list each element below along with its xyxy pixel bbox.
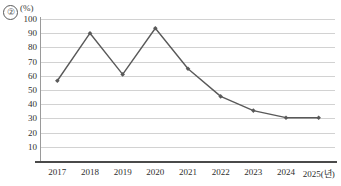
y-axis-tick-label: 10 [13, 143, 37, 152]
y-axis-tick-label: 70 [13, 58, 37, 67]
x-axis-line [35, 161, 337, 163]
x-axis-tick-label: 2024 [277, 167, 295, 177]
series-polyline [57, 28, 318, 117]
data-point-marker [284, 115, 289, 120]
data-point-marker [251, 108, 256, 113]
plot-area [41, 19, 335, 161]
x-axis-tick-label: 2019 [114, 167, 132, 177]
x-axis-tick-label: 2018 [81, 167, 99, 177]
y-axis-tick-label: 50 [13, 86, 37, 95]
data-point-marker [316, 115, 321, 120]
y-axis-tick-label: 100 [13, 15, 37, 24]
y-axis-unit-label: (%) [20, 3, 34, 13]
x-axis-tick-label: 2021 [179, 167, 197, 177]
x-axis-tick-label: 2020 [146, 167, 164, 177]
y-axis-tick-label: 80 [13, 43, 37, 52]
y-axis-tick-label: 90 [13, 29, 37, 38]
chart-figure: ② (%) 100908070605040302010 201720182019… [0, 0, 341, 186]
x-axis-tick-label: 2022 [212, 167, 230, 177]
x-axis-tick-label: 2023 [244, 167, 262, 177]
series-line-chart [41, 19, 335, 161]
x-axis-tick-label: 2017 [48, 167, 66, 177]
y-axis-tick-label: 20 [13, 129, 37, 138]
y-axis-tick-label: 30 [13, 114, 37, 123]
y-axis-tick-label: 40 [13, 100, 37, 109]
y-axis-tick-label: 60 [13, 72, 37, 81]
x-axis-tick-label: 2025(년) [303, 167, 335, 180]
